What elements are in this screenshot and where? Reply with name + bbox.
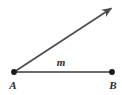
point-a-label: A <box>8 79 16 91</box>
segment-measure-label: m <box>57 56 66 68</box>
diagram-svg: A B m <box>0 0 122 95</box>
point-b-label: B <box>108 79 116 91</box>
geometry-diagram: A B m <box>0 0 122 95</box>
point-b-dot <box>109 69 115 75</box>
point-a-dot <box>11 69 17 75</box>
